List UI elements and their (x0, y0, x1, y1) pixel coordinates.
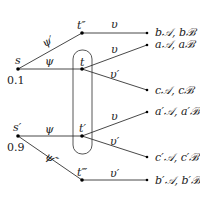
prob-s: 0.1 (7, 74, 25, 87)
label-ttprime: t‴ (77, 166, 87, 179)
edge-label-s-tdprime: ψ′ (40, 33, 56, 50)
label-s: s (15, 54, 21, 67)
payoff-aprime: a′𝒜, a′ℬ (155, 105, 200, 118)
edge-label-sprime-tprime: ψ (45, 123, 54, 136)
prob-sprime: 0.9 (7, 141, 25, 154)
edge-label-s-t: ψ (45, 55, 54, 68)
game-tree-diagram: s 0.1 s′ 0.9 t″ t t′ t‴ ψ′ ψ ψ ψ″ υ υ υ′… (0, 0, 200, 197)
edge-label-sprime-ttprime: ψ″ (43, 150, 62, 168)
payoff-cprime: c′𝒜, c′ℬ (155, 151, 200, 164)
leaf-cprime (146, 156, 149, 159)
node-sprime (16, 134, 20, 138)
edge-label-tprime-cprime: υ′ (110, 135, 120, 148)
edge-label-t-c: υ′ (110, 68, 120, 81)
label-sprime: s′ (13, 121, 22, 134)
leaf-bprime (146, 179, 149, 182)
label-tdprime: t″ (77, 19, 86, 32)
edge-label-ttprime-bprime: υ′ (110, 167, 120, 180)
leaf-a (146, 44, 149, 47)
label-t: t (80, 56, 85, 69)
payoff-a: a𝒜, aℬ (155, 38, 197, 51)
leaf-aprime (146, 111, 149, 114)
edge-label-tdprime-b: υ (111, 18, 118, 31)
edge-label-tprime-aprime: υ (111, 110, 118, 123)
leaf-c (146, 89, 149, 92)
payoff-c: c𝒜, cℬ (155, 84, 196, 97)
node-s (16, 67, 20, 71)
edge-label-t-a: υ (111, 43, 118, 56)
leaf-b (146, 32, 149, 35)
label-tprime: t′ (79, 122, 86, 135)
payoff-bprime: b′𝒜, b′ℬ (155, 174, 200, 187)
